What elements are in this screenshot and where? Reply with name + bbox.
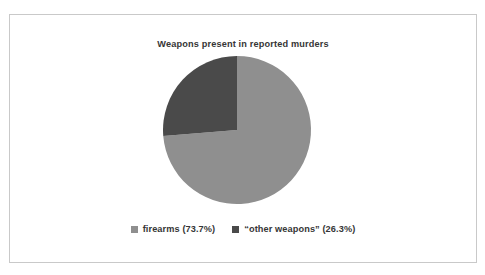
legend-label-other-weapons: “other weapons” (26.3%) [244, 224, 355, 234]
legend-item-other-weapons: “other weapons” (26.3%) [232, 224, 355, 234]
legend-item-firearms: firearms (73.7%) [131, 224, 216, 234]
legend-swatch-other-weapons [232, 226, 239, 233]
legend-swatch-firearms [131, 226, 138, 233]
scan-artifact-bottom [12, 268, 432, 275]
chart-legend: firearms (73.7%) “other weapons” (26.3%) [10, 224, 476, 234]
pie-chart-svg [157, 49, 317, 211]
scan-artifact-top [60, 0, 120, 9]
pie-slice-other-weapons [163, 56, 237, 136]
legend-label-firearms: firearms (73.7%) [143, 224, 216, 234]
chart-figure-frame: Weapons present in reported murders fire… [9, 14, 477, 263]
